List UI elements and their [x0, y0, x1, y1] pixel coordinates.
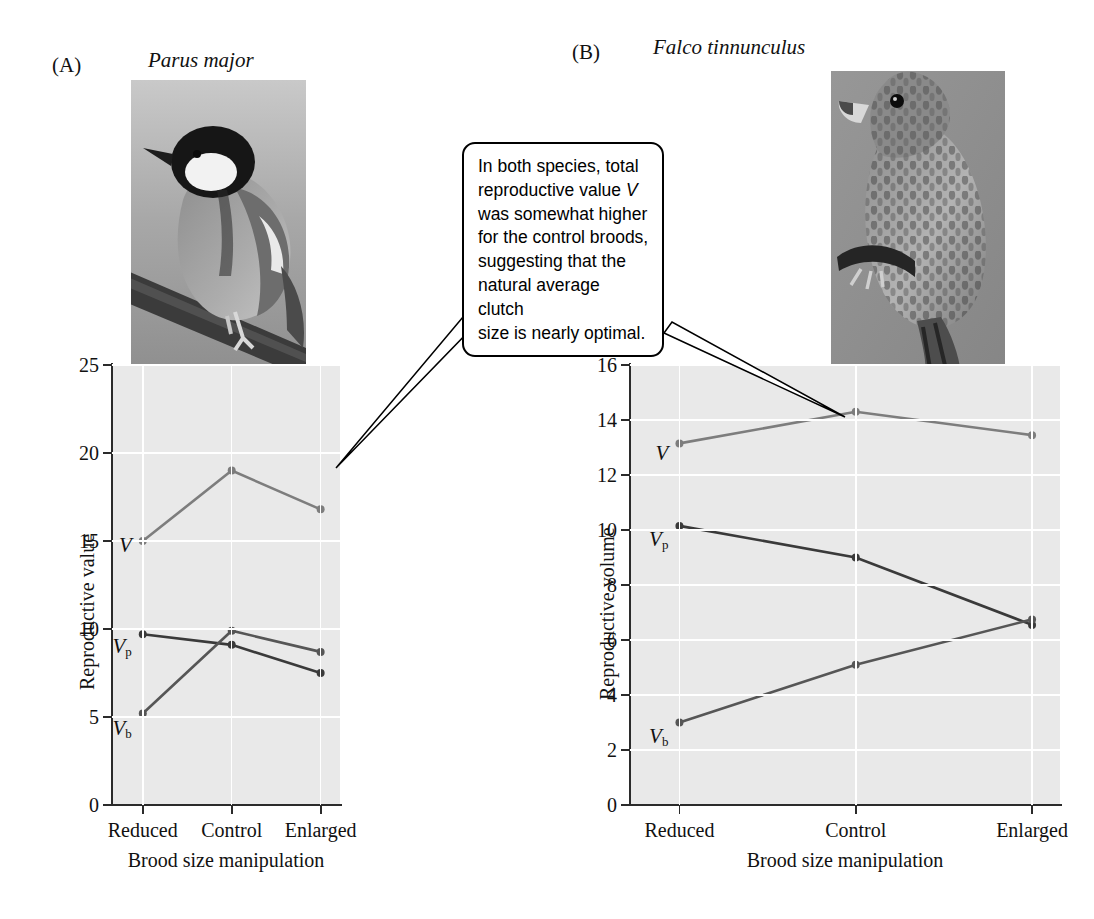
- callout-line-7: size is nearly optimal.: [478, 322, 649, 346]
- callout-line-2: reproductive value V: [478, 179, 649, 203]
- callout-line-6: natural average clutch: [478, 274, 649, 322]
- callout-line-4: for the control broods,: [478, 226, 649, 250]
- callout-line-5: suggesting that the: [478, 250, 649, 274]
- callout-symbol-v: V: [626, 180, 638, 200]
- callout-line-1: In both species, total: [478, 155, 649, 179]
- annotation-callout: In both species, total reproductive valu…: [462, 142, 664, 357]
- callout-line-3: was somewhat higher: [478, 203, 649, 227]
- figure-root: (A) Parus major: [0, 0, 1094, 919]
- callout-leader-lines: [0, 0, 1094, 919]
